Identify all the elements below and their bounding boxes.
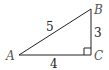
side-label-ac: 4 [50, 57, 58, 70]
side-label-bc: 3 [94, 26, 102, 40]
right-triangle-diagram: A B C 5 3 4 [0, 0, 109, 70]
side-label-ab: 5 [46, 20, 54, 34]
vertex-label-a: A [5, 49, 15, 63]
right-angle-marker [84, 48, 91, 55]
vertex-label-b: B [93, 3, 103, 17]
triangle-abc [19, 9, 91, 55]
vertex-label-c: C [94, 49, 103, 63]
